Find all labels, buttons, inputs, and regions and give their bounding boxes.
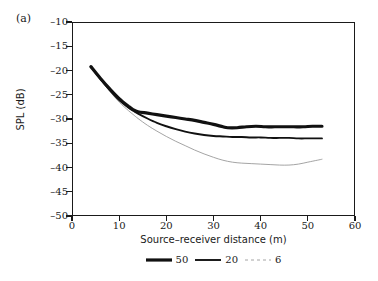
x-tick-mark bbox=[119, 216, 120, 221]
y-tick-mark bbox=[66, 46, 72, 47]
y-tick-label: –20 bbox=[34, 66, 68, 76]
x-axis-title: Source–receiver distance (m) bbox=[72, 234, 355, 245]
x-tick-mark bbox=[71, 216, 72, 221]
legend-swatch-20 bbox=[195, 255, 221, 265]
y-tick-label: –30 bbox=[34, 114, 68, 124]
x-tick-label: 30 bbox=[199, 220, 229, 231]
x-tick-mark bbox=[307, 216, 308, 221]
x-tick-mark bbox=[213, 216, 214, 221]
y-tick-label: –45 bbox=[34, 187, 68, 197]
series-line-6 bbox=[91, 67, 322, 165]
y-axis-tick-labels: –10–15–20–25–30–35–40–45–50 bbox=[28, 0, 68, 281]
x-tick-label: 50 bbox=[293, 220, 323, 231]
y-tick-mark bbox=[66, 191, 72, 192]
y-axis-title: SPL (dB) bbox=[15, 70, 26, 150]
y-tick-label: –15 bbox=[34, 41, 68, 51]
x-tick-label: 20 bbox=[151, 220, 181, 231]
y-tick-mark bbox=[66, 143, 72, 144]
y-tick-mark bbox=[66, 118, 72, 119]
legend-swatch-50 bbox=[146, 255, 172, 265]
y-tick-mark bbox=[66, 94, 72, 95]
legend-label-20: 20 bbox=[225, 254, 238, 265]
legend-entry-6: 6 bbox=[245, 254, 281, 265]
legend: 50206 bbox=[72, 254, 355, 265]
x-tick-label: 10 bbox=[104, 220, 134, 231]
series-line-50 bbox=[91, 67, 322, 128]
legend-label-6: 6 bbox=[275, 254, 281, 265]
x-tick-mark bbox=[260, 216, 261, 221]
x-tick-label: 60 bbox=[340, 220, 370, 231]
legend-swatch-6 bbox=[245, 255, 271, 265]
y-tick-label: –25 bbox=[34, 90, 68, 100]
legend-entry-50: 50 bbox=[146, 254, 189, 265]
x-tick-label: 0 bbox=[57, 220, 87, 231]
legend-entry-20: 20 bbox=[195, 254, 238, 265]
x-tick-mark bbox=[354, 216, 355, 221]
y-tick-label: –10 bbox=[34, 17, 68, 27]
y-tick-mark bbox=[66, 70, 72, 71]
y-tick-label: –40 bbox=[34, 163, 68, 173]
legend-label-50: 50 bbox=[176, 254, 189, 265]
x-tick-mark bbox=[166, 216, 167, 221]
figure: (a) –10–15–20–25–30–35–40–45–50 SPL (dB)… bbox=[0, 0, 378, 281]
plot-canvas bbox=[72, 22, 355, 216]
y-tick-label: –35 bbox=[34, 138, 68, 148]
x-tick-label: 40 bbox=[246, 220, 276, 231]
y-tick-mark bbox=[66, 21, 72, 22]
y-tick-mark bbox=[66, 167, 72, 168]
